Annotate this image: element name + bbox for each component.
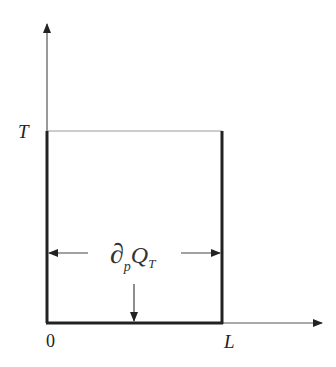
subscript-p: p — [124, 259, 131, 274]
label-origin: 0 — [46, 331, 55, 352]
flux-label: ∂pQT — [110, 238, 155, 270]
label-T: T — [18, 121, 29, 143]
subscript-T: T — [148, 256, 155, 271]
Q-symbol: Q — [131, 242, 148, 268]
partial-symbol: ∂ — [110, 238, 124, 269]
label-L: L — [224, 331, 235, 353]
diagram-canvas — [0, 0, 336, 367]
